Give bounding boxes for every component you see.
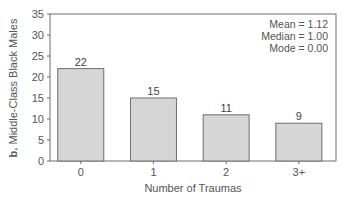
- y-axis-title: b. Middle-Class Black Males: [7, 18, 19, 157]
- median-annotation: Median = 1.00: [261, 30, 328, 42]
- y-axis-title-text: Middle-Class Black Males: [7, 18, 19, 147]
- y-tick-label: 20: [32, 71, 44, 83]
- bar-value-label: 22: [75, 56, 87, 68]
- y-tick-label: 25: [32, 50, 44, 62]
- mode-annotation: Mode = 0.00: [269, 42, 328, 54]
- bar-0: [58, 69, 104, 161]
- bar-value-label: 15: [147, 85, 159, 97]
- x-tick-label: 3+: [293, 166, 306, 178]
- y-tick-label: 0: [38, 155, 44, 167]
- x-tick-label: 2: [223, 166, 229, 178]
- bar-2: [203, 115, 249, 161]
- y-tick-label: 5: [38, 134, 44, 146]
- x-axis-title: Number of Traumas: [144, 182, 242, 194]
- y-tick-label: 35: [32, 8, 44, 20]
- panel-label: b.: [7, 148, 19, 158]
- bars: 2215119: [58, 56, 322, 161]
- y-tick-label: 15: [32, 92, 44, 104]
- bar-1: [130, 98, 176, 161]
- y-tick-label: 10: [32, 113, 44, 125]
- y-axis-ticks: 05101520253035: [32, 8, 50, 167]
- bar-value-label: 11: [220, 102, 231, 114]
- mean-annotation: Mean = 1.12: [269, 18, 328, 30]
- x-tick-label: 1: [150, 166, 156, 178]
- x-axis-ticks: 0123+: [78, 161, 305, 178]
- y-tick-label: 30: [32, 29, 44, 41]
- x-tick-label: 0: [78, 166, 84, 178]
- bar-value-label: 9: [296, 110, 302, 122]
- bar-chart: 05101520253035 2215119 0123+ Mean = 1.12…: [0, 0, 351, 200]
- bar-3+: [276, 123, 322, 161]
